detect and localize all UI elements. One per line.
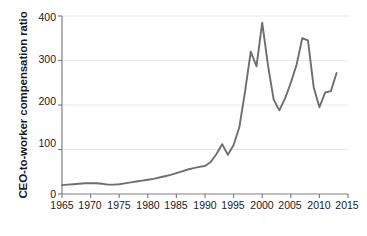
plot-area <box>0 0 367 236</box>
data-series-line <box>62 23 337 185</box>
gridlines <box>62 16 348 150</box>
ceo-worker-compensation-ratio-chart: CEO-to-worker compensation ratio 400 300… <box>0 0 367 236</box>
x-axis-ticks <box>62 194 348 198</box>
